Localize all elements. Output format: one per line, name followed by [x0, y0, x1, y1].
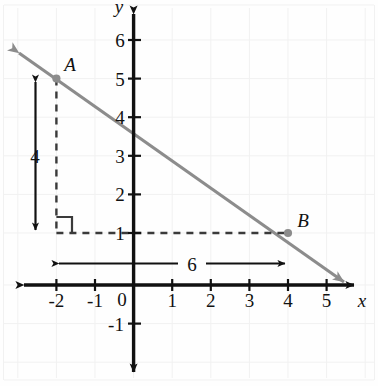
run-measure-label: 6	[187, 254, 197, 275]
graph-canvas: -2 -1 1 2 3 4 5 6 5 4 3 2 1 -1 0 x y A B…	[0, 0, 378, 386]
point-a-marker	[52, 75, 60, 83]
y-tick-label-1: 1	[115, 223, 125, 244]
y-tick-label-6: 6	[115, 30, 125, 51]
grid-lines	[4, 5, 375, 380]
point-b-label: B	[297, 210, 309, 231]
x-tick-label--2: -2	[48, 290, 64, 311]
y-tick-label-4: 4	[115, 107, 125, 128]
x-tick-label-2: 2	[206, 290, 216, 311]
right-angle-marker	[56, 217, 72, 233]
rise-measure-label: 4	[30, 146, 40, 167]
y-axis-label: y	[113, 0, 124, 17]
x-tick-label-1: 1	[167, 290, 177, 311]
line-ab	[19, 53, 344, 282]
y-tick-label--1: -1	[108, 314, 124, 335]
origin-label: 0	[117, 289, 127, 310]
x-tick-label-3: 3	[245, 290, 255, 311]
x-tick-label-4: 4	[283, 290, 293, 311]
point-b-marker	[284, 229, 292, 237]
y-tick-label-5: 5	[115, 69, 125, 90]
y-tick-label-3: 3	[115, 146, 125, 167]
point-a-label: A	[62, 54, 76, 75]
x-axis-label: x	[357, 290, 367, 311]
x-tick-label--1: -1	[87, 290, 103, 311]
y-tick-label-2: 2	[115, 184, 125, 205]
coordinate-graph-svg: -2 -1 1 2 3 4 5 6 5 4 3 2 1 -1 0 x y A B…	[0, 0, 378, 386]
x-tick-label-5: 5	[322, 290, 332, 311]
